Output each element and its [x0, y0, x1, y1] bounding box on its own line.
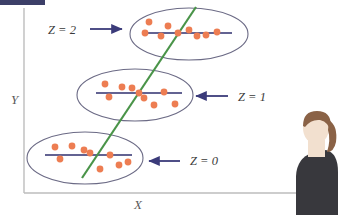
data-point [158, 33, 165, 40]
data-point [142, 30, 149, 37]
data-point [175, 30, 182, 37]
person-illustration [296, 111, 338, 215]
data-point [214, 29, 221, 36]
data-point [172, 101, 179, 108]
ellipse-group-z1 [77, 69, 193, 121]
data-point [194, 33, 201, 40]
data-point [161, 89, 168, 96]
data-point [81, 147, 88, 154]
data-point [116, 162, 123, 169]
data-point [165, 23, 172, 30]
data-point [97, 166, 104, 173]
x-axis-label: X [133, 197, 143, 212]
data-point [107, 152, 114, 159]
label-z1: Z = 1 [238, 90, 266, 104]
label-z0: Z = 0 [190, 154, 219, 168]
top-left-highlight-bar [0, 0, 45, 5]
person-body-icon [296, 150, 338, 215]
data-point [203, 32, 210, 39]
data-points-z1 [102, 81, 179, 109]
data-point [119, 84, 126, 91]
data-point [129, 85, 136, 92]
data-point [141, 95, 148, 102]
group-annotations: Z = 2 Z = 1 Z = 0 [48, 23, 266, 168]
data-point [125, 159, 132, 166]
data-point [106, 94, 113, 101]
figure-canvas: Y X [0, 0, 338, 215]
data-point [186, 27, 193, 34]
label-z2: Z = 2 [48, 23, 76, 37]
data-point [57, 156, 64, 163]
data-point [52, 144, 59, 151]
data-point [151, 102, 158, 109]
data-point [69, 143, 76, 150]
data-point [146, 19, 153, 26]
y-axis-label: Y [11, 92, 20, 107]
axes: Y X [11, 8, 300, 212]
data-point [136, 90, 143, 97]
data-point [87, 150, 94, 157]
ellipse-group-z0 [27, 132, 143, 184]
data-point [102, 81, 109, 88]
data-points-z0 [52, 143, 132, 173]
